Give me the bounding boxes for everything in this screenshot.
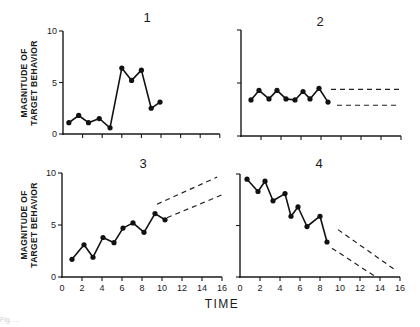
data-point [292,97,297,102]
data-point [129,78,134,83]
data-point [248,97,253,102]
data-point [90,255,95,260]
data-point [107,125,112,130]
x-tick-label: 10 [335,283,345,293]
data-series-line [72,214,165,260]
data-point [149,106,154,111]
x-tick-label: 4 [277,283,282,293]
data-point [69,257,74,262]
projection-upper-dashed-line [338,230,395,270]
data-point [162,217,167,222]
x-tick-label: 0 [59,283,64,293]
x-tick-label: 12 [177,283,187,293]
panel-title: 4 [315,156,322,171]
x-axis-label: TIME [205,297,240,311]
data-series-line [69,68,160,128]
data-point [130,220,135,225]
y-axis-label-top-line2: TARGET BEHAVIOR [29,40,39,125]
projection-lower-dashed-line [332,248,376,277]
data-point [324,239,329,244]
x-tick-label: 10 [157,283,167,293]
data-point [316,86,321,91]
data-point [307,96,312,101]
data-point [86,120,91,125]
data-point [283,96,288,101]
y-tick-label: 5 [52,78,57,88]
data-point [317,214,322,219]
x-tick-label: 14 [375,283,385,293]
data-point [66,120,71,125]
x-tick-label: 6 [119,283,124,293]
panel-title: 3 [139,156,146,171]
data-series-line [247,179,327,242]
x-tick-label: 8 [139,283,144,293]
y-tick-label: 0 [52,129,57,139]
x-tick-label: 16 [395,283,405,293]
data-point [295,204,300,209]
x-tick-label: 8 [317,283,322,293]
data-point [141,230,146,235]
y-axis-label-bottom-line2: TARGET BEHAVIOR [29,182,39,267]
data-point [152,211,157,216]
data-point [119,65,124,70]
x-tick-label: 14 [197,283,207,293]
data-point [81,242,86,247]
data-point [111,240,116,245]
data-point [97,116,102,121]
x-tick-label: 2 [257,283,262,293]
data-point [266,96,271,101]
y-axis-label-bottom-line1: MAGNITUDE OF [19,190,29,259]
x-tick-label: 6 [297,283,302,293]
data-point [282,191,287,196]
panel-3: 051002468101214163 [46,156,227,293]
data-point [139,68,144,73]
y-tick-label: 0 [51,272,56,282]
panel-title: 2 [316,14,323,29]
projection-upper-dashed-line [157,177,217,204]
data-point [100,235,105,240]
x-tick-label: 12 [355,283,365,293]
data-point [270,198,275,203]
data-point [244,177,249,182]
data-point [288,214,293,219]
data-point [274,88,279,93]
panel-title: 1 [143,10,150,25]
four-panel-figure: 05101205100246810121416302468101214164 M… [0,0,420,327]
panel-2: 2 [237,14,401,140]
data-point [157,99,162,104]
x-tick-label: 0 [237,283,242,293]
data-point [325,99,330,104]
data-point [255,189,260,194]
data-point [256,88,261,93]
y-tick-label: 5 [51,220,56,230]
data-point [120,226,125,231]
y-tick-label: 10 [46,168,56,178]
data-series-line [251,88,328,102]
panel-1: 05101 [47,10,220,139]
y-tick-label: 10 [47,26,57,36]
x-tick-label: 2 [79,283,84,293]
projection-lower-dashed-line [167,195,222,218]
panel-4: 02468101214164 [236,156,405,293]
y-axis-label-top-line1: MAGNITUDE OF [19,48,29,117]
figure-caption-fragment: Fig. ... [0,316,19,323]
data-point [300,89,305,94]
data-point [304,224,309,229]
data-point [76,113,81,118]
x-tick-label: 16 [217,283,227,293]
data-point [262,179,267,184]
x-tick-label: 4 [99,283,104,293]
